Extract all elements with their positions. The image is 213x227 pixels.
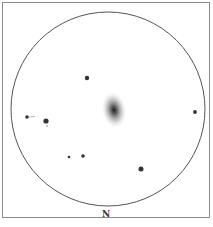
star: [43, 118, 48, 123]
star: [68, 156, 71, 159]
eyepiece-field: [0, 0, 213, 227]
star: [193, 110, 197, 114]
star: [85, 76, 89, 80]
star: [46, 125, 48, 127]
star: [81, 154, 85, 158]
star-tail: [29, 117, 35, 118]
star: [25, 115, 29, 119]
star: [139, 167, 144, 172]
galaxy: [99, 90, 129, 130]
north-label: N: [99, 209, 113, 219]
